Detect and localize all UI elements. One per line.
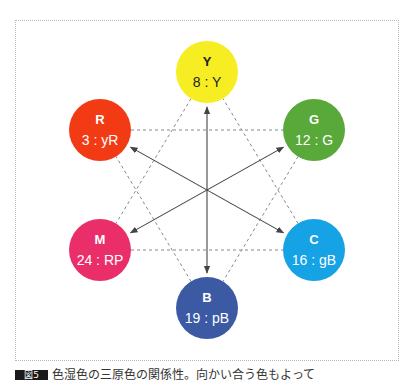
figure-tag: 図5 (15, 370, 48, 380)
node-green: G 12 : G (283, 99, 345, 161)
node-yellow: Y 8 : Y (176, 41, 238, 103)
node-code: 3 : yR (82, 131, 119, 149)
node-blue: B 19 : pB (176, 277, 238, 339)
node-symbol: R (95, 112, 104, 127)
node-code: 16 : gB (292, 251, 336, 269)
node-symbol: M (95, 232, 106, 247)
figure-caption: 図5 色湿色の三原色の関係性。向かい合う色もよって (15, 368, 415, 382)
node-magenta: M 24 : RP (69, 219, 131, 281)
node-symbol: Y (203, 54, 212, 69)
node-symbol: G (309, 112, 319, 127)
node-code: 12 : G (295, 131, 333, 149)
node-code: 19 : pB (185, 309, 229, 327)
complementary-arrows (131, 107, 284, 273)
node-symbol: C (309, 232, 318, 247)
node-red: R 3 : yR (69, 99, 131, 161)
node-code: 8 : Y (193, 73, 222, 91)
node-code: 24 : RP (77, 251, 124, 269)
node-symbol: B (202, 290, 211, 305)
caption-text: 色湿色の三原色の関係性。向かい合う色もよって (52, 368, 315, 382)
node-cyan: C 16 : gB (283, 219, 345, 281)
